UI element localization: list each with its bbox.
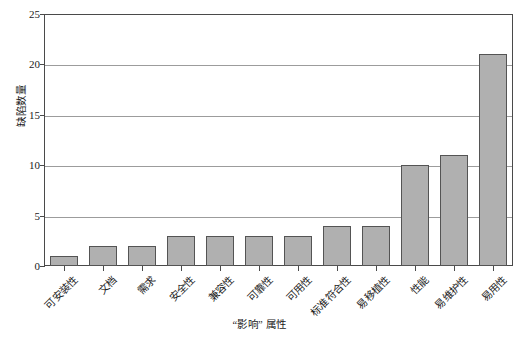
x-axis-tick-labels: 可安装性文档需求安全性兼容性可靠性可用性标准符合性易移植性性能易维护性易用性 (44, 268, 513, 316)
bar (284, 236, 312, 266)
x-axis-tick-label: 安全性 (165, 272, 197, 304)
x-axis-tick-label: 易移植性 (353, 272, 393, 312)
x-axis-tick-label: 需求 (133, 272, 158, 297)
x-axis-tick-label: 可靠性 (243, 272, 275, 304)
bar (206, 236, 234, 266)
bar (362, 226, 390, 266)
bar (167, 236, 195, 266)
bar (89, 246, 117, 266)
y-axis-tick-label: 5 (6, 210, 40, 221)
x-axis-tick-label: 易用性 (478, 272, 510, 304)
bar (245, 236, 273, 266)
bar (128, 246, 156, 266)
x-axis-tick-label: 可安装性 (40, 272, 80, 312)
y-axis-tick-label: 10 (6, 160, 40, 171)
x-axis-tick-label: 文档 (94, 272, 119, 297)
bar-chart-figure: 0510152025 缺陷数量 可安装性文档需求安全性兼容性可靠性可用性标准符合… (0, 0, 519, 341)
y-axis-tick-label: 0 (6, 261, 40, 272)
bar (401, 165, 429, 266)
x-axis-tick-label: 性能 (407, 272, 432, 297)
x-axis-tick-label: 标准符合性 (307, 272, 354, 319)
bar (323, 226, 351, 266)
bar (50, 256, 78, 266)
y-axis-title: 缺陷数量 (13, 60, 28, 152)
x-axis-tick-label: 可用性 (282, 272, 314, 304)
bar (479, 54, 507, 266)
bars-layer (44, 14, 513, 266)
bar (440, 155, 468, 266)
x-axis-tick-label: 易维护性 (431, 272, 471, 312)
x-axis-title: “影响” 属性 (0, 316, 519, 331)
x-axis-tick-label: 兼容性 (204, 272, 236, 304)
y-axis-tick-label: 25 (6, 9, 40, 20)
